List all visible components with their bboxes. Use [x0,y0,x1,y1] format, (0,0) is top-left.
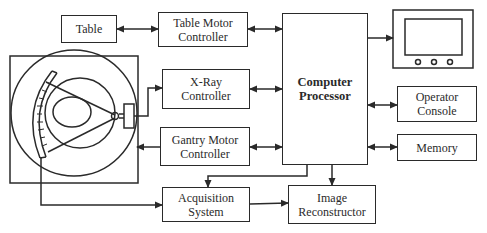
computer-processor-label: Computer Processor [298,75,353,103]
xray-controller-label: X-Ray Controller [181,75,230,103]
image-reconstructor-block: Image Reconstructor [288,185,376,224]
computer-processor-block: Computer Processor [282,13,368,165]
xray-controller-block: X-Ray Controller [162,69,250,109]
operator-console-block: Operator Console [397,86,477,122]
table-label: Table [76,22,102,36]
acquisition-system-block: Acquisition System [162,187,250,222]
acquisition-system-label: Acquisition System [178,191,234,219]
ct-gantry-icon [10,50,138,183]
operator-console-label: Operator Console [416,90,459,118]
gantry-motor-controller-block: Gantry Motor Controller [160,127,250,166]
table-block: Table [61,15,117,43]
memory-block: Memory [397,134,477,161]
gantry-motor-controller-label: Gantry Motor Controller [172,133,238,161]
memory-label: Memory [416,141,457,155]
table-motor-controller-label: Table Motor Controller [173,16,232,44]
image-reconstructor-label: Image Reconstructor [298,191,365,219]
display-monitor-icon [393,10,473,68]
table-motor-controller-block: Table Motor Controller [158,12,248,47]
